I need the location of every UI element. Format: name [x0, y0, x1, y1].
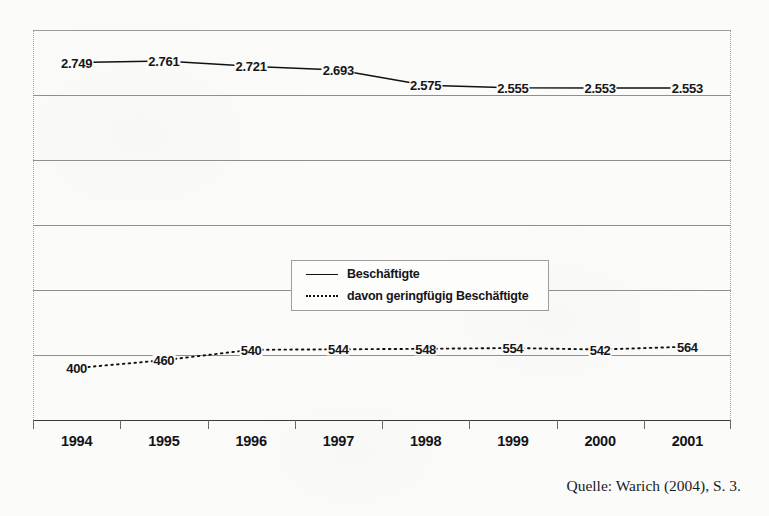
x-axis-tick	[33, 420, 34, 429]
x-axis-tick	[557, 420, 558, 429]
data-label: 554	[501, 341, 524, 354]
x-axis-tick	[469, 420, 470, 429]
x-axis-tick	[120, 420, 121, 429]
x-axis-tick	[382, 420, 383, 429]
data-label: 2.749	[60, 56, 93, 69]
data-label: 460	[152, 354, 175, 367]
x-axis-tick	[208, 420, 209, 429]
x-axis-label-1997: 1997	[323, 433, 354, 449]
legend-item-beschaeftigte: Beschäftigte	[306, 267, 420, 281]
x-axis-tick	[644, 420, 645, 429]
data-label: 542	[589, 343, 612, 356]
x-axis-tick	[295, 420, 296, 429]
plot-area: 2.7492.7612.7212.6932.5752.5552.5532.553…	[33, 30, 731, 420]
chart-page: 2.7492.7612.7212.6932.5752.5552.5532.553…	[0, 0, 769, 516]
data-label: 548	[414, 342, 437, 355]
legend-key-dotted-line-icon	[306, 295, 338, 297]
x-axis-label-2000: 2000	[584, 433, 615, 449]
data-label: 2.721	[235, 60, 268, 73]
data-label: 540	[240, 343, 263, 356]
x-axis-label-1994: 1994	[61, 433, 92, 449]
data-label: 2.553	[584, 82, 617, 95]
data-label: 400	[65, 362, 88, 375]
x-axis-label-2001: 2001	[672, 433, 703, 449]
legend-label: davon geringfügig Beschäftigte	[347, 289, 529, 303]
data-label: 2.761	[147, 55, 180, 68]
data-label: 2.693	[322, 63, 355, 76]
data-label: 564	[676, 340, 699, 353]
x-axis-label-1996: 1996	[235, 433, 266, 449]
source-note: Quelle: Warich (2004), S. 3.	[566, 477, 741, 495]
data-label: 2.575	[409, 79, 442, 92]
legend-item-geringfuegig-beschaeftigte: davon geringfügig Beschäftigte	[306, 289, 529, 303]
data-label: 2.555	[496, 81, 529, 94]
legend-key-solid-line-icon	[306, 274, 338, 275]
x-axis-tick	[730, 420, 731, 429]
x-axis-label-1998: 1998	[410, 433, 441, 449]
chart-legend: Beschäftigte davon geringfügig Beschäfti…	[291, 260, 549, 311]
data-label: 544	[327, 343, 350, 356]
data-label: 2.553	[671, 82, 704, 95]
legend-label: Beschäftigte	[347, 267, 420, 281]
x-axis-label-1999: 1999	[497, 433, 528, 449]
series-lines	[33, 30, 731, 420]
x-axis-label-1995: 1995	[148, 433, 179, 449]
